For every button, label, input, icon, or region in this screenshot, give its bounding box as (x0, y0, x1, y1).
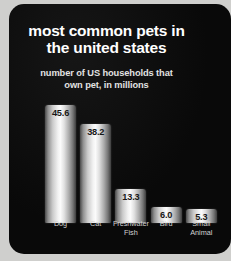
chart-subtitle-line-2: own pet, in millions (9, 80, 204, 92)
bar-chart-plot-area: 45.6Dog38.2Cat13.3FreshwaterFish6.0Bird5… (36, 96, 215, 223)
bar-value-label: 45.6 (45, 108, 76, 118)
chart-subtitle: number of US households that own pet, in… (9, 68, 204, 91)
chart-title-line-1: most common pets in (9, 22, 204, 39)
bar[interactable]: 13.3 (115, 189, 146, 223)
bar-group: 13.3 (115, 189, 146, 223)
bar-value-label: 13.3 (115, 192, 146, 202)
chart-subtitle-line-1: number of US households that (9, 68, 204, 80)
bar-group: 45.6 (45, 105, 76, 223)
chart-card: most common pets in the united states nu… (9, 4, 215, 254)
bar[interactable]: 45.6 (45, 105, 76, 223)
chart-title: most common pets in the united states (9, 22, 204, 56)
category-label-line-2: Fish (109, 229, 153, 238)
category-label: SmallAnimal (179, 220, 215, 237)
category-label-line-2: Animal (179, 229, 215, 238)
bar[interactable]: 38.2 (80, 124, 111, 223)
bar-value-label: 38.2 (80, 127, 111, 137)
bar-group: 38.2 (80, 124, 111, 223)
chart-title-line-2: the united states (9, 39, 204, 56)
